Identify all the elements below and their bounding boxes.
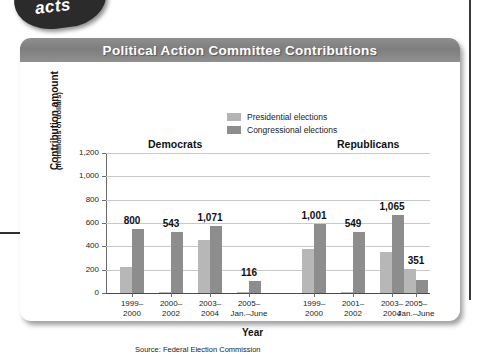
figure-title: Political Action Committee Contributions	[103, 43, 378, 58]
bar-congressional	[249, 281, 261, 293]
x-axis-tick	[132, 293, 133, 297]
corner-badge: acts	[11, 0, 109, 33]
x-axis-title: Year	[242, 327, 263, 338]
group-header-democrats: Democrats	[148, 138, 202, 150]
bar-presidential	[237, 292, 249, 294]
x-axis-tick	[353, 293, 354, 297]
gridline	[106, 153, 430, 154]
group-header-republicans: Republicans	[337, 138, 399, 150]
x-tick-label-line2: Jan.–June	[390, 309, 442, 319]
gridline	[106, 176, 430, 177]
corner-badge-label: acts	[34, 0, 72, 19]
x-tick-label: 2005–Jan.–June	[223, 299, 275, 319]
bar-presidential	[120, 267, 132, 293]
y-tick-label: 200	[59, 265, 99, 274]
y-axis-tick	[102, 200, 106, 201]
x-axis-tick	[249, 293, 250, 297]
legend-item-congressional: Congressional elections	[227, 124, 337, 135]
legend-label-presidential: Presidential elections	[247, 112, 327, 122]
bar-congressional	[314, 224, 326, 293]
x-axis-tick	[416, 293, 417, 297]
y-tick-label: 600	[59, 218, 99, 227]
y-axis-tick	[102, 223, 106, 224]
bar-data-label: 351	[394, 255, 438, 266]
x-tick-label-line1: 2005–	[390, 299, 442, 309]
bar-data-label: 1,065	[370, 201, 414, 212]
x-axis-tick	[392, 293, 393, 297]
x-axis-tick	[314, 293, 315, 297]
page-edge-right	[479, 0, 487, 336]
y-axis-tick	[102, 153, 106, 154]
y-axis-tick	[102, 293, 106, 294]
bar-presidential	[159, 292, 171, 294]
y-axis-tick	[102, 246, 106, 247]
bar-data-label: 543	[149, 218, 193, 229]
y-tick-label: 800	[59, 195, 99, 204]
y-axis-tick	[102, 270, 106, 271]
bar-presidential	[380, 252, 392, 293]
bar-data-label: 800	[110, 215, 154, 226]
legend-swatch-presidential-icon	[227, 113, 241, 121]
bar-data-label: 116	[227, 267, 271, 278]
bar-presidential	[198, 240, 210, 293]
bar-data-label: 1,071	[188, 212, 232, 223]
bar-congressional	[132, 229, 144, 293]
x-axis-tick	[171, 293, 172, 297]
chart-legend: Presidential elections Congressional ele…	[227, 111, 337, 137]
legend-item-presidential: Presidential elections	[227, 111, 337, 122]
y-tick-label: 1,000	[59, 171, 99, 180]
bar-congressional	[416, 280, 428, 293]
bar-data-label: 1,001	[292, 210, 336, 221]
page-rule-right	[469, 0, 471, 300]
bar-congressional	[171, 232, 183, 293]
x-axis-tick	[210, 293, 211, 297]
y-axis-tick	[102, 176, 106, 177]
bar-congressional	[353, 232, 365, 293]
bar-data-label: 549	[331, 218, 375, 229]
figure-title-bar: Political Action Committee Contributions	[20, 38, 460, 62]
x-tick-label-line2: Jan.–June	[223, 309, 275, 319]
bar-presidential	[341, 292, 353, 294]
gridline	[106, 293, 430, 294]
gridline	[106, 246, 430, 247]
bar-presidential	[404, 269, 416, 294]
y-tick-label: 1,200	[59, 148, 99, 157]
legend-swatch-congressional-icon	[227, 126, 241, 134]
legend-label-congressional: Congressional elections	[247, 125, 337, 135]
bar-presidential	[302, 249, 314, 293]
figure-card: Political Action Committee Contributions…	[20, 38, 460, 321]
plot-area: 1,2001,0008006004002000 8005431,0711161,…	[106, 153, 430, 293]
x-tick-label-line1: 2005–	[223, 299, 275, 309]
y-tick-label: 0	[59, 288, 99, 297]
x-tick-label: 2005–Jan.–June	[390, 299, 442, 319]
y-tick-label: 400	[59, 241, 99, 250]
bar-congressional	[210, 226, 222, 293]
source-note: Source: Federal Election Commission	[135, 345, 260, 354]
